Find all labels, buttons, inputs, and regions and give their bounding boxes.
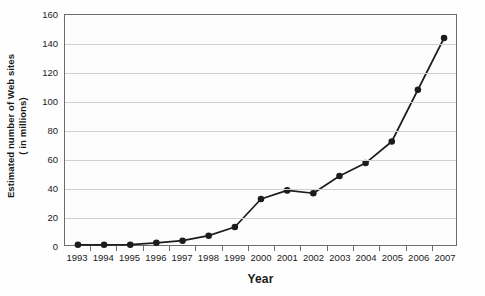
x-tick-mark [406,246,407,251]
y-tick-label-40: 40 [47,183,58,194]
data-point-2003 [336,173,343,180]
x-tick-label-1997: 1997 [172,252,193,263]
y-tick-label-0: 0 [53,241,58,252]
x-tick-label-1995: 1995 [119,252,140,263]
data-point-2002 [310,190,317,197]
y-axis-tick-labels: 020406080100120140160 [34,0,62,252]
data-point-1998 [205,232,212,239]
x-tick-label-2007: 2007 [434,252,455,263]
data-point-1997 [179,237,186,244]
data-series-line [65,15,456,245]
y-tick-label-140: 140 [42,38,58,49]
x-tick-label-1993: 1993 [66,252,87,263]
x-tick-label-1996: 1996 [145,252,166,263]
x-axis-tick-marks [64,246,457,251]
x-tick-mark [116,246,117,251]
gridline-40 [65,189,456,190]
data-point-2007 [441,35,448,42]
x-axis-title: Year [64,272,457,286]
gridline-140 [65,44,456,45]
x-tick-mark [327,246,328,251]
x-tick-label-2006: 2006 [408,252,429,263]
y-tick-label-160: 160 [42,9,58,20]
x-tick-mark [379,246,380,251]
x-axis-tick-labels: 1993199419951996199719981999200020012002… [64,252,457,268]
data-point-2006 [415,86,422,93]
gridline-100 [65,102,456,103]
line-chart-figure: Estimated number of Web sites ( in milli… [0,0,485,296]
x-tick-label-2004: 2004 [356,252,377,263]
x-tick-label-1994: 1994 [93,252,114,263]
data-point-2000 [258,196,265,203]
y-tick-label-20: 20 [47,212,58,223]
y-tick-label-60: 60 [47,154,58,165]
x-tick-mark [90,246,91,251]
x-tick-label-2003: 2003 [329,252,350,263]
y-axis-title: Estimated number of Web sites ( in milli… [0,0,34,252]
gridline-60 [65,160,456,161]
y-axis-title-line-1: Estimated number of Web sites [5,54,16,198]
gridline-80 [65,131,456,132]
x-tick-mark [143,246,144,251]
x-tick-mark [248,246,249,251]
x-tick-mark [169,246,170,251]
x-tick-label-2001: 2001 [277,252,298,263]
x-tick-mark [222,246,223,251]
x-tick-label-1999: 1999 [224,252,245,263]
x-tick-mark [353,246,354,251]
plot-area [64,14,457,246]
y-tick-label-80: 80 [47,125,58,136]
gridline-120 [65,73,456,74]
y-axis-title-line-2: ( in millions) [17,54,29,198]
x-tick-mark [300,246,301,251]
data-point-2005 [388,138,395,145]
plot-inner [65,15,456,245]
data-point-1999 [232,224,239,231]
x-tick-label-2000: 2000 [250,252,271,263]
y-tick-label-100: 100 [42,96,58,107]
x-tick-mark [195,246,196,251]
y-tick-label-120: 120 [42,67,58,78]
x-tick-label-2002: 2002 [303,252,324,263]
gridline-20 [65,218,456,219]
x-tick-mark [432,246,433,251]
x-tick-label-2005: 2005 [382,252,403,263]
x-tick-label-1998: 1998 [198,252,219,263]
x-tick-mark [274,246,275,251]
